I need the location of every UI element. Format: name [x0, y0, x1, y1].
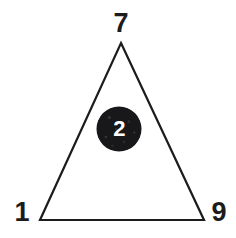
vertex-label-top: 7: [113, 10, 128, 37]
center-node-label: 2: [113, 118, 125, 140]
vertex-label-left: 1: [14, 199, 29, 226]
vertex-label-right: 9: [211, 199, 226, 226]
diagram-canvas: 7 1 9 2: [0, 0, 236, 238]
center-node-circle: 2: [97, 107, 141, 151]
